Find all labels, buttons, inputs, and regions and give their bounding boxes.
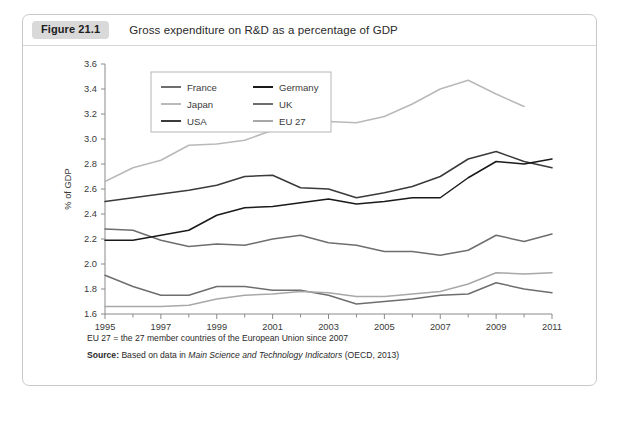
chart-legend: FranceGermanyJapanUKUSAEU 27 bbox=[151, 72, 331, 132]
x-tick-label: 1995 bbox=[95, 322, 116, 332]
y-tick-label: 2.0 bbox=[84, 259, 97, 269]
series-line-germany bbox=[105, 159, 552, 240]
source-note: Source: Based on data in Main Science an… bbox=[87, 349, 557, 361]
x-tick-label: 1999 bbox=[206, 322, 227, 332]
legend-label: Japan bbox=[187, 99, 213, 110]
source-text-a: Based on data in bbox=[121, 350, 186, 360]
figure-notes: EU 27 = the 27 member countries of the E… bbox=[87, 332, 557, 367]
y-tick-label: 1.6 bbox=[84, 309, 97, 319]
eu-note: EU 27 = the 27 member countries of the E… bbox=[87, 332, 557, 344]
source-label: Source: bbox=[87, 350, 119, 360]
series-line-eu-27 bbox=[105, 273, 552, 307]
legend-label: USA bbox=[187, 116, 207, 127]
chart-area: 3.63.43.23.02.82.62.42.22.01.81.61995199… bbox=[23, 46, 596, 386]
y-tick-label: 3.2 bbox=[84, 109, 97, 119]
x-tick-label: 2011 bbox=[542, 322, 562, 332]
x-tick-label: 2005 bbox=[374, 322, 395, 332]
legend-label: Germany bbox=[279, 82, 319, 93]
y-tick-label: 2.4 bbox=[84, 209, 97, 219]
x-tick-label: 2007 bbox=[430, 322, 451, 332]
y-tick-label: 2.2 bbox=[84, 234, 97, 244]
figure-card: Figure 21.1 Gross expenditure on R&D as … bbox=[22, 14, 597, 386]
y-tick-label: 3.0 bbox=[84, 134, 97, 144]
source-italic-title: Main Science and Technology Indicators bbox=[188, 350, 342, 360]
figure-header: Figure 21.1 Gross expenditure on R&D as … bbox=[23, 15, 596, 46]
legend-label: UK bbox=[279, 99, 293, 110]
y-tick-label: 3.4 bbox=[84, 84, 97, 94]
y-tick-label: 2.8 bbox=[84, 159, 97, 169]
legend-label: EU 27 bbox=[279, 116, 306, 127]
y-axis-title: % of GDP bbox=[63, 168, 73, 209]
figure-number-badge: Figure 21.1 bbox=[32, 21, 109, 39]
y-tick-label: 2.6 bbox=[84, 184, 97, 194]
x-tick-label: 2003 bbox=[318, 322, 339, 332]
y-tick-label: 3.6 bbox=[84, 59, 97, 69]
source-text-b: (OECD, 2013) bbox=[345, 350, 399, 360]
x-tick-label: 2001 bbox=[262, 322, 283, 332]
x-tick-label: 2009 bbox=[486, 322, 507, 332]
y-tick-label: 1.8 bbox=[84, 284, 97, 294]
series-line-uk bbox=[105, 275, 552, 304]
legend-label: France bbox=[187, 82, 217, 93]
series-line-usa bbox=[105, 152, 552, 202]
x-tick-label: 1997 bbox=[151, 322, 172, 332]
figure-caption: Gross expenditure on R&D as a percentage… bbox=[129, 24, 398, 36]
